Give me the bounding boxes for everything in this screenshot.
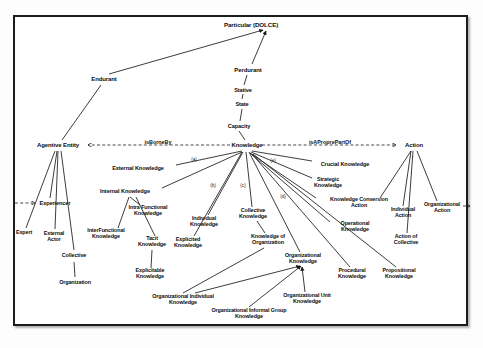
diagram-canvas: Particular (DOLCE)EndurantPerdurantStati…: [0, 0, 483, 348]
node-particular: Particular (DOLCE): [224, 22, 278, 29]
node-organizational-unit-knowledge: Organizational Unit Knowledge: [283, 293, 331, 305]
node-agentive-entity: Agentive Entity: [37, 142, 79, 148]
node-operational-knowledge: Operational Knowledge: [341, 221, 370, 233]
node-inter-functional-knowledge: InterFunctional Knowledge: [87, 228, 124, 240]
node-knowledge-of-organization: Knowledge of Organization: [251, 234, 285, 246]
node-organizational-informal-group-knowledge: Organizational Informal Group Knowledge: [212, 308, 287, 320]
marker-c: (c): [240, 183, 245, 188]
marker-b: (b): [210, 183, 216, 188]
node-individual-action: Individual Action: [391, 207, 415, 219]
node-organizational-individual-knowledge: Organizational Individual Knowledge: [152, 294, 214, 306]
node-state: State: [235, 101, 248, 107]
marker-e: (e): [270, 158, 276, 163]
node-knowledge-conversion-action: Knowledge Conversion Action: [330, 197, 388, 209]
node-action-of-collective: Action of Collective: [394, 234, 418, 246]
node-organization: Organization: [59, 280, 91, 286]
node-experiencer: Experiencer: [40, 200, 71, 206]
node-crucial-knowledge: Crucial Knowledge: [321, 161, 370, 167]
node-external-actor: External Actor: [44, 231, 64, 243]
node-organizational-knowledge: Organizational Knowledge: [285, 253, 321, 265]
node-stative: Stative: [234, 87, 252, 93]
node-explicitable-knowledge: Explicitable Knowledge: [136, 268, 165, 280]
node-expert: Expert: [16, 230, 32, 236]
marker-a: (a): [191, 157, 197, 162]
relation-label-is-borne-by: isBorneBy: [145, 139, 172, 145]
node-strategic-knowledge: Strategic Knowledge: [314, 177, 342, 189]
node-internal-knowledge: Internal Knowledge: [100, 188, 150, 194]
node-intra-functional-knowledge: Intra Functional Knowledge: [129, 205, 168, 217]
node-knowledge: Knowledge: [231, 142, 262, 148]
node-collective: Collective: [62, 253, 86, 259]
node-procedural-knowledge: Procedural Knowledge: [338, 268, 366, 280]
node-individual-knowledge: Individual Knowledge: [190, 216, 218, 228]
node-capacity: Capacity: [228, 123, 251, 129]
node-organizational-action: Organizational Action: [424, 202, 460, 214]
node-endurant: Endurant: [91, 76, 117, 82]
node-action: Action: [405, 142, 423, 148]
node-tacit-knowledge: Tacit Knowledge: [138, 236, 166, 248]
relation-label-is-a-propre-part-of: isAProprePartOf: [309, 139, 351, 145]
node-explicited-knowledge: Explicited Knowledge: [174, 237, 202, 249]
node-external-knowledge: External Knowledge: [112, 165, 164, 171]
marker-d: (d): [280, 194, 286, 199]
node-propositional-knowledge: Propositional Knowledge: [382, 268, 415, 280]
node-perdurant: Perdurant: [234, 67, 261, 73]
node-collective-knowledge: Collective Knowledge: [239, 208, 267, 220]
